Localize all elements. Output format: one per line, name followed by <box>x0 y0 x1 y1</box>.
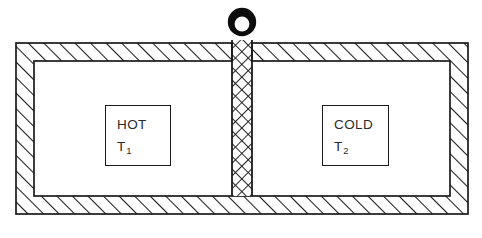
cold-chamber-temperature-label: T2 <box>334 140 348 154</box>
partition-junction-hatch <box>233 43 251 60</box>
hot-chamber-temperature-label: T1 <box>117 140 131 154</box>
hot-temperature-subscript: 1 <box>126 145 132 156</box>
partition-wall-junction <box>232 43 252 61</box>
cold-chamber-label-box: COLD T2 <box>322 105 389 166</box>
diagram-vector-layer <box>0 0 482 238</box>
partition-hatch-fill <box>232 40 252 196</box>
hot-chamber-state-label: HOT <box>117 118 147 132</box>
hot-chamber-label-box: HOT T1 <box>105 105 171 166</box>
cold-chamber-state-label: COLD <box>334 118 373 132</box>
cold-temperature-symbol: T <box>334 139 343 154</box>
cold-temperature-subscript: 2 <box>343 145 349 156</box>
thermodynamics-partition-diagram: HOT T1 COLD T2 <box>0 0 482 238</box>
hot-temperature-symbol: T <box>117 139 126 154</box>
ring-handle-icon <box>228 8 256 36</box>
central-partition <box>232 40 252 196</box>
ring-handle-hole <box>235 17 250 32</box>
